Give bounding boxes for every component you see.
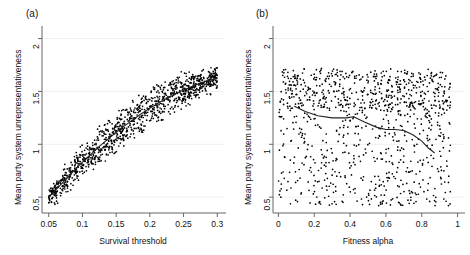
data-point [72,184,74,186]
data-point [433,92,435,94]
data-point [153,88,155,90]
data-point [96,139,98,141]
data-point [322,140,324,142]
data-point [367,82,369,84]
data-point [374,195,376,197]
data-point [298,103,300,105]
data-point [374,86,376,88]
data-point [151,100,153,102]
data-point [175,88,177,90]
data-point [298,133,300,135]
data-point [284,83,286,85]
y-tick-label: 2 [32,38,41,54]
data-point [448,96,450,98]
data-point [320,127,322,129]
data-point [376,73,378,75]
data-point [438,101,440,103]
data-point [209,73,211,75]
data-point [141,129,143,131]
data-point [99,156,101,158]
data-point [98,151,100,153]
data-point [389,161,391,163]
data-point [379,91,381,93]
data-point [122,128,124,130]
data-point [126,130,128,132]
data-point [324,197,326,199]
data-point [435,201,437,203]
data-point [297,147,299,149]
data-point [408,106,410,108]
data-point [388,95,390,97]
data-point [184,101,186,103]
data-point [419,86,421,88]
data-point [411,72,413,74]
data-point [418,72,420,74]
data-point [342,136,344,138]
data-point [206,93,208,95]
data-point [303,138,305,140]
data-point [391,109,393,111]
data-point [372,104,374,106]
data-point [390,95,392,97]
data-point [418,183,420,185]
data-point [321,162,323,164]
data-point [426,109,428,111]
data-point [340,100,342,102]
data-point [76,177,78,179]
data-point [342,76,344,78]
data-point [300,102,302,104]
data-point [356,200,358,202]
data-point [344,175,346,177]
data-point [338,104,340,106]
data-point [95,161,97,163]
data-point [314,95,316,97]
data-point [429,177,431,179]
x-tick-label: 0.05 [33,220,65,229]
data-point [116,137,118,139]
data-point [280,101,282,103]
data-point [328,92,330,94]
data-point [282,74,284,76]
data-point [318,170,320,172]
data-point [126,119,128,121]
data-point [147,112,149,114]
data-point [424,79,426,81]
data-point [295,103,297,105]
data-point [370,181,372,183]
data-point [138,130,140,132]
data-point [287,75,289,77]
data-point [391,97,393,99]
data-point [345,73,347,75]
data-point [49,200,51,202]
data-point [343,134,345,136]
data-point [59,182,61,184]
data-point [371,99,373,101]
data-point [380,72,382,74]
data-point [313,159,315,161]
data-point [411,81,413,83]
data-point [137,109,139,111]
data-point [338,172,340,174]
data-point [444,86,446,88]
data-point [189,77,191,79]
data-point [325,97,327,99]
data-point [348,152,350,154]
data-point [181,102,183,104]
data-point [78,179,80,181]
data-point [209,85,211,87]
data-point [349,103,351,105]
data-point [368,194,370,196]
data-point [206,77,208,79]
data-point [153,86,155,88]
data-point [441,114,443,116]
data-point [97,158,99,160]
data-point [407,71,409,73]
data-point [301,102,303,104]
data-point [409,193,411,195]
data-point [339,127,341,129]
data-point [345,111,347,113]
data-point [322,98,324,100]
data-point [435,105,437,107]
data-point [393,176,395,178]
data-point [108,147,110,149]
